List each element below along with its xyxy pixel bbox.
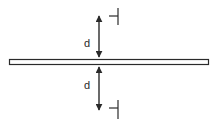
bottom-point-marker xyxy=(109,100,118,119)
plate xyxy=(10,60,209,65)
diagram-canvas: d d xyxy=(0,0,219,127)
top-distance-label: d xyxy=(84,37,90,49)
bottom-distance-label: d xyxy=(84,79,90,91)
top-point-marker xyxy=(109,8,118,25)
